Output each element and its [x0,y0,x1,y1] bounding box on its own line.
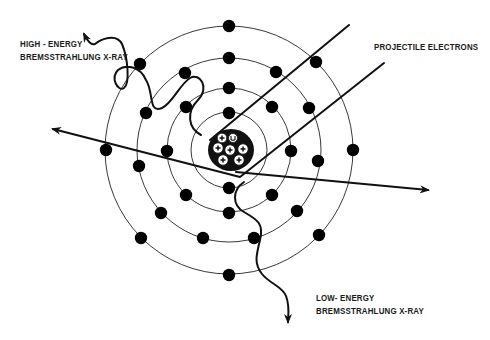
electron-icon [291,205,303,217]
electron-icon [303,102,315,114]
electron-icon [312,155,324,167]
electron-icon [270,66,282,78]
electron-icon [180,189,192,201]
electron-icon [155,207,167,219]
neutron-icon [229,134,238,143]
electron-icon [266,101,278,113]
low-energy-label-line2: BREMSSTRAHLUNG X-RAY [316,305,424,318]
electron-icon [140,107,152,119]
electron-icon [223,82,235,94]
electron-icon [285,145,297,157]
electron-icon [100,144,112,156]
electron-icon [223,20,235,32]
high-energy-label-line2: BREMSSTRAHLUNG X-RAY [20,51,128,64]
electron-icon [197,232,209,244]
electron-icon [310,56,322,68]
electron-icon [133,160,145,172]
electron-icon [223,269,235,281]
electron-icon [135,232,147,244]
electron-icon [161,145,173,157]
high-energy-label: HIGH - ENERGY BREMSSTRAHLUNG X-RAY [20,38,128,63]
electron-icon [223,107,235,119]
high-energy-label-line1: HIGH - ENERGY [20,38,128,51]
electron-icon [266,189,278,201]
electron-icon [223,207,235,219]
low-energy-label: LOW- ENERGY BREMSSTRAHLUNG X-RAY [316,292,424,317]
electron-icon [223,52,235,64]
low-energy-label-line1: LOW- ENERGY [316,292,424,305]
electron-icon [248,232,260,244]
electron-icon [347,144,359,156]
electron-icon [223,182,235,194]
electron-icon [313,229,325,241]
projectile-electrons-label: PROJECTILE ELECTRONS [374,41,478,54]
deflected-electron-path [236,172,428,190]
